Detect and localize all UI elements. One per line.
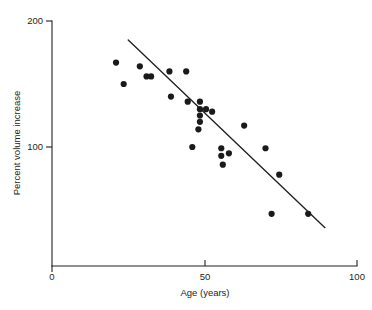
x-axis-title: Age (years) bbox=[180, 287, 229, 298]
data-point bbox=[197, 99, 203, 105]
y-tick-label-100: 100 bbox=[27, 141, 43, 152]
x-tick-label-50: 50 bbox=[200, 271, 211, 282]
data-point bbox=[197, 106, 203, 112]
data-point bbox=[276, 172, 282, 178]
data-point bbox=[197, 112, 203, 118]
data-point bbox=[168, 94, 174, 100]
data-point bbox=[195, 126, 201, 132]
y-axis-title: Percent volume increase bbox=[11, 91, 22, 196]
scatter-chart: 200 100 0 50 100 Age (years) Percent vol… bbox=[0, 0, 372, 310]
data-point bbox=[189, 144, 195, 150]
regression-line bbox=[128, 40, 325, 228]
data-point bbox=[218, 145, 224, 151]
data-points-group bbox=[113, 59, 311, 216]
data-point bbox=[185, 99, 191, 105]
y-tick-label-200: 200 bbox=[27, 15, 43, 26]
data-point bbox=[166, 68, 172, 74]
x-tick-label-100: 100 bbox=[349, 271, 365, 282]
x-tick-label-0: 0 bbox=[49, 271, 54, 282]
data-point bbox=[220, 162, 226, 168]
data-point bbox=[183, 68, 189, 74]
data-point bbox=[241, 122, 247, 128]
data-point bbox=[148, 73, 154, 79]
data-point bbox=[121, 81, 127, 87]
plot-canvas: 200 100 0 50 100 Age (years) Percent vol… bbox=[0, 0, 372, 310]
data-point bbox=[203, 106, 209, 112]
data-point bbox=[197, 119, 203, 125]
data-point bbox=[262, 145, 268, 151]
data-point bbox=[269, 211, 275, 217]
data-point bbox=[113, 59, 119, 65]
data-point bbox=[209, 109, 215, 115]
data-point bbox=[305, 211, 311, 217]
data-point bbox=[218, 153, 224, 159]
data-point bbox=[226, 150, 232, 156]
fit-line-group bbox=[128, 40, 325, 228]
data-point bbox=[137, 63, 143, 69]
